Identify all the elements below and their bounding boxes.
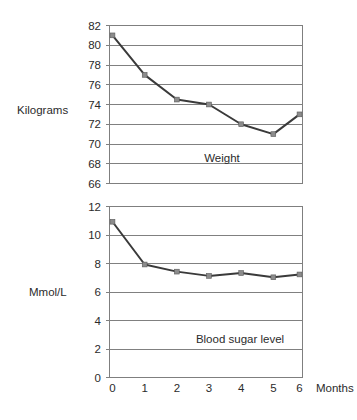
weight-y-tick-label: 76: [88, 79, 101, 91]
weight-y-axis-title: Kilograms: [17, 104, 68, 116]
weight-y-tick-label: 82: [88, 20, 101, 32]
blood-sugar-y-tick-label: 4: [95, 315, 102, 327]
blood-sugar-y-tick-label: 10: [88, 229, 101, 241]
blood-sugar-y-tick-label: 8: [95, 258, 101, 270]
weight-series-annotation: Weight: [204, 152, 240, 164]
blood-sugar-x-tick-label: 6: [296, 382, 302, 394]
weight-y-axis-tickmarks: [106, 26, 110, 184]
blood-sugar-x-axis-title: Months: [316, 382, 354, 394]
weight-chart-panel: 82 80 78 76 74 72 70 68 66 Kilograms: [17, 20, 303, 190]
blood-sugar-x-tick-label: 4: [238, 382, 245, 394]
blood-sugar-y-tick-label: 12: [88, 201, 101, 213]
blood-sugar-y-tick-label: 2: [95, 343, 101, 355]
blood-sugar-x-tick-label: 2: [174, 382, 180, 394]
blood-sugar-series-annotation: Blood sugar level: [196, 333, 284, 345]
weight-y-tick-label: 70: [88, 138, 101, 150]
weight-y-tick-label: 80: [88, 39, 101, 51]
blood-sugar-x-tick-label: 1: [141, 382, 147, 394]
blood-sugar-y-axis-tick-labels: 12 10 8 6 4 2 0: [88, 201, 101, 384]
blood-sugar-chart-panel: 12 10 8 6 4 2 0 Mmol/L Blood sugar level: [29, 201, 354, 395]
weight-y-tick-label: 72: [88, 118, 101, 130]
blood-sugar-x-tick-label: 5: [270, 382, 276, 394]
blood-sugar-y-axis-tickmarks: [106, 207, 110, 378]
weight-y-tick-label: 66: [88, 178, 101, 190]
blood-sugar-x-tick-label: 3: [206, 382, 212, 394]
blood-sugar-x-tick-label: 0: [109, 382, 115, 394]
blood-sugar-y-tick-label: 6: [95, 286, 101, 298]
weight-y-tick-label: 68: [88, 158, 101, 170]
weight-y-tick-label: 78: [88, 59, 101, 71]
weight-y-axis-tick-labels: 82 80 78 76 74 72 70 68 66: [88, 20, 101, 190]
blood-sugar-x-axis-tick-labels: 0 1 2 3 4 5 6: [109, 382, 302, 394]
blood-sugar-y-tick-label: 0: [95, 372, 101, 384]
two-panel-line-chart-figure: 82 80 78 76 74 72 70 68 66 Kilograms: [0, 0, 357, 420]
weight-y-tick-label: 74: [88, 99, 101, 111]
blood-sugar-y-axis-title: Mmol/L: [29, 286, 67, 298]
